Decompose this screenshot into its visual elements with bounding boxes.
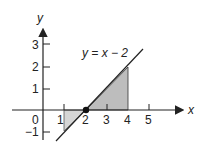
x-tick-label-5: 5 — [145, 113, 152, 127]
x-tick-label-3: 3 — [103, 113, 110, 127]
graph-figure: y x 3 2 1 −1 0 1 2 3 4 5 y = x − 2 — [0, 0, 205, 150]
x-tick-label-1: 1 — [57, 113, 64, 127]
x-tick-label-4: 4 — [124, 113, 131, 127]
y-tick-label-neg1: −1 — [25, 125, 39, 139]
x-tick-label-2: 2 — [82, 113, 89, 127]
equation-label: y = x − 2 — [81, 46, 128, 60]
x-ticks — [64, 104, 149, 110]
shaded-region-above-axis — [86, 67, 128, 110]
x-axis-label: x — [187, 103, 195, 117]
y-ticks — [43, 44, 50, 132]
y-tick-label-1: 1 — [32, 82, 39, 96]
y-tick-label-3: 3 — [32, 38, 39, 52]
y-tick-label-2: 2 — [32, 60, 39, 74]
y-axis-label: y — [36, 11, 44, 25]
origin-label: 0 — [32, 113, 39, 127]
function-line — [56, 49, 143, 141]
